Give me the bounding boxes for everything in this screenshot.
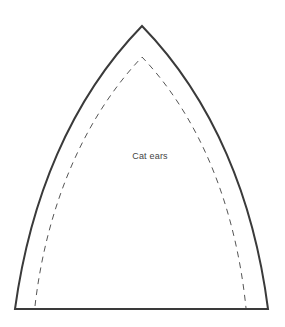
inner-seam-line (35, 57, 246, 308)
cat-ear-pattern (0, 0, 285, 327)
outer-cut-line (15, 26, 268, 309)
pattern-label: Cat ears (100, 151, 200, 161)
pattern-canvas: Cat ears (0, 0, 285, 327)
